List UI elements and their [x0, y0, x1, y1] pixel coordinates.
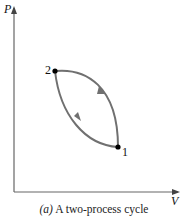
- point-1-label: 1: [122, 145, 128, 160]
- pv-diagram: [0, 0, 188, 223]
- caption-text: A two-process cycle: [55, 203, 148, 215]
- caption-prefix: (a): [40, 203, 53, 215]
- y-axis-arrow-icon: [11, 6, 17, 14]
- state-point-2: [52, 68, 57, 73]
- state-point-1: [115, 144, 120, 149]
- y-axis-label: P: [4, 2, 11, 17]
- figure-caption: (a) A two-process cycle: [0, 203, 188, 215]
- process-1-to-2-curve: [55, 71, 118, 147]
- process-1-to-2-arrow-icon: [74, 112, 81, 121]
- point-2-label: 2: [45, 63, 51, 78]
